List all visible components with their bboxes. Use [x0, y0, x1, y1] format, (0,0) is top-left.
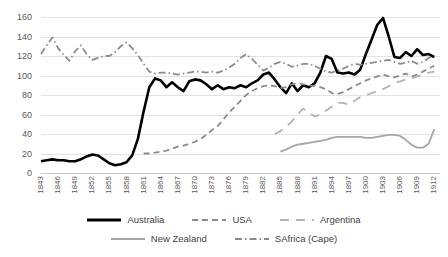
legend-swatch-icon	[192, 215, 226, 225]
legend-item-argentina[interactable]: Argentina	[280, 215, 361, 225]
legend-label: Australia	[127, 215, 164, 225]
x-tick-label: 1843	[37, 176, 45, 194]
legend-swatch-icon	[235, 234, 269, 244]
series-line-argentina	[275, 72, 435, 134]
plot-area	[41, 17, 440, 173]
line-chart: 020406080100120140160 184318461849185218…	[0, 0, 448, 257]
x-tick-label: 1900	[362, 176, 370, 194]
x-axis-labels: 1843184618491852185518581861186418671870…	[41, 176, 440, 206]
legend-label: New Zealand	[151, 234, 207, 244]
x-tick-label: 1849	[71, 176, 79, 194]
x-tick-label: 1888	[294, 176, 302, 194]
legend-swatch-icon	[111, 234, 145, 244]
x-tick-label: 1852	[88, 176, 96, 194]
series-lines	[41, 17, 440, 173]
x-tick-label: 1912	[430, 176, 438, 194]
legend-row: New ZealandSAfrica (Cape)	[0, 229, 448, 248]
x-tick-label: 1876	[225, 176, 233, 194]
legend-item-usa[interactable]: USA	[192, 215, 252, 225]
legend-label: USA	[232, 215, 252, 225]
y-tick-label: 20	[22, 149, 32, 158]
legend-swatch-icon	[280, 215, 314, 225]
legend-label: SAfrica (Cape)	[275, 234, 337, 244]
series-line-usa	[144, 66, 435, 154]
x-tick-label: 1870	[191, 176, 199, 194]
x-tick-label: 1879	[242, 176, 250, 194]
y-tick-label: 40	[22, 130, 32, 139]
legend-item-new-zealand[interactable]: New Zealand	[111, 234, 207, 244]
x-tick-label: 1897	[345, 176, 353, 194]
x-tick-label: 1861	[140, 176, 148, 194]
x-tick-label: 1882	[259, 176, 267, 194]
y-tick-label: 80	[22, 91, 32, 100]
x-tick-label: 1867	[174, 176, 182, 194]
x-tick-label: 1906	[396, 176, 404, 194]
legend-swatch-icon	[87, 215, 121, 225]
legend-row: AustraliaUSAArgentina	[0, 210, 448, 229]
y-axis-labels: 020406080100120140160	[0, 17, 36, 173]
x-tick-label: 1846	[54, 176, 62, 194]
x-tick-label: 1894	[328, 176, 336, 194]
x-axis-line	[41, 173, 440, 174]
x-tick-label: 1903	[379, 176, 387, 194]
legend-label: Argentina	[320, 215, 361, 225]
legend-item-safrica-cape[interactable]: SAfrica (Cape)	[235, 234, 337, 244]
y-tick-label: 60	[22, 110, 32, 119]
legend-item-australia[interactable]: Australia	[87, 215, 164, 225]
y-tick-label: 120	[17, 52, 32, 61]
x-tick-label: 1891	[311, 176, 319, 194]
y-tick-label: 160	[17, 13, 32, 22]
x-tick-label: 1873	[208, 176, 216, 194]
chart-legend: AustraliaUSAArgentina New ZealandSAfrica…	[0, 210, 448, 252]
x-tick-label: 1885	[276, 176, 284, 194]
x-tick-label: 1909	[413, 176, 421, 194]
y-tick-label: 0	[27, 169, 32, 178]
series-line-new-zealand	[280, 129, 434, 151]
series-line-safrica-cape	[41, 37, 434, 74]
x-tick-label: 1864	[157, 176, 165, 194]
x-tick-label: 1858	[123, 176, 131, 194]
y-tick-label: 140	[17, 32, 32, 41]
x-tick-label: 1855	[105, 176, 113, 194]
y-tick-label: 100	[17, 71, 32, 80]
